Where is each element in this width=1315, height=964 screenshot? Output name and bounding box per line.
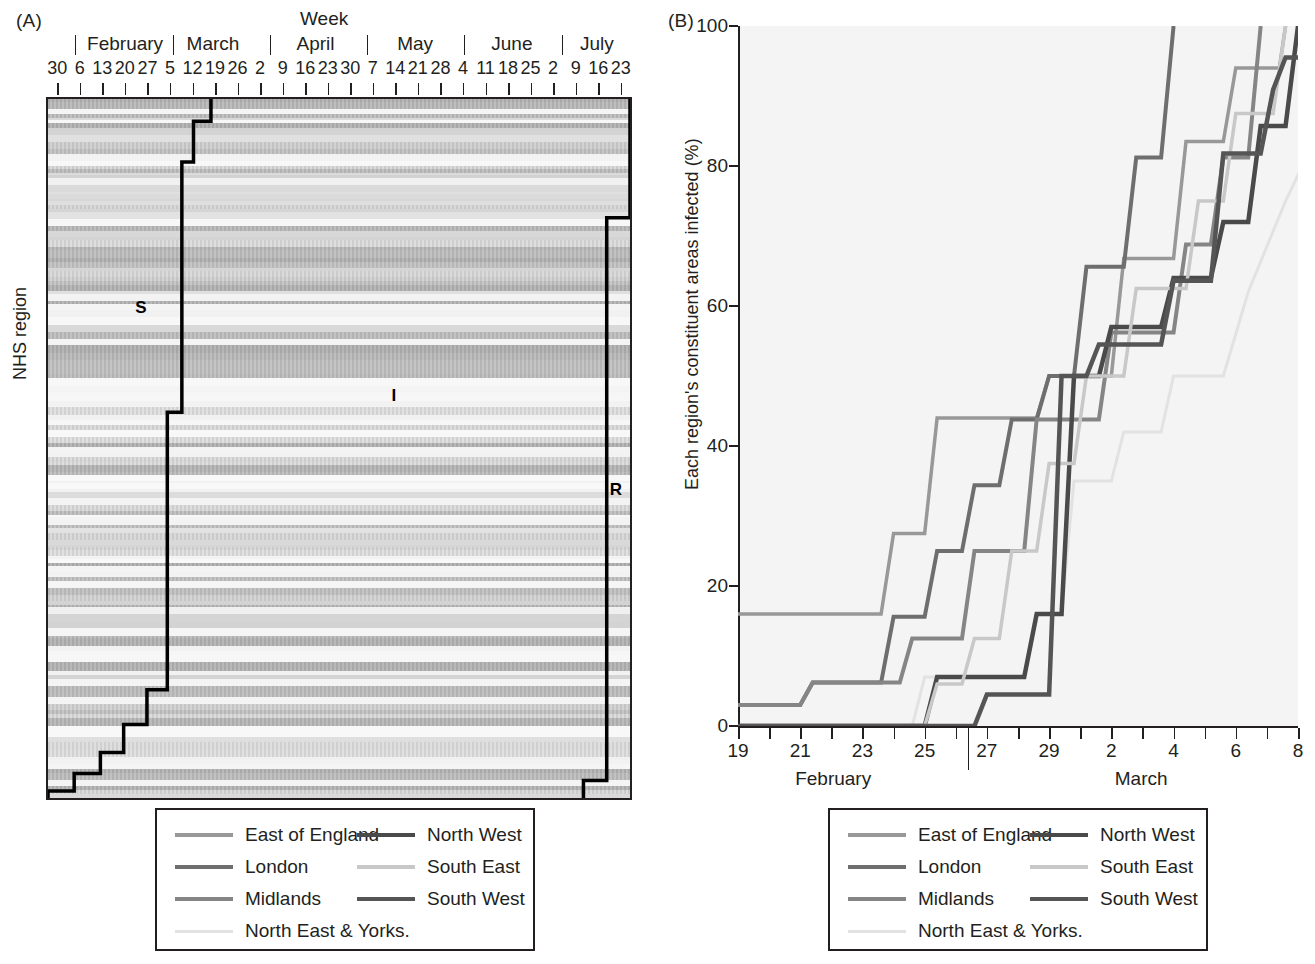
panel-a-tag: (A) [16, 10, 42, 32]
legend-b-grid: East of EnglandLondonMidlandsNorth East … [830, 810, 1206, 949]
legend-entry[interactable]: Midlands [848, 888, 994, 910]
y-tick-mark [729, 445, 738, 447]
panel-a-day-label: 25 [521, 58, 541, 79]
panel-a-day-label: 27 [137, 58, 157, 79]
legend-label: North West [1100, 824, 1195, 846]
y-tick-label: 0 [717, 715, 728, 737]
axis-tick [553, 83, 555, 95]
panel-b-line-chart [738, 26, 1298, 726]
month-separator [75, 35, 76, 55]
panel-a-month-label: July [580, 33, 614, 55]
legend-label: North East & Yorks. [245, 920, 410, 942]
legend-entry[interactable]: South West [1030, 888, 1198, 910]
x-tick [987, 728, 989, 739]
axis-tick [305, 83, 307, 95]
legend-label: South East [427, 856, 520, 878]
legend-a-grid: East of EnglandLondonMidlandsNorth East … [157, 810, 533, 949]
axis-tick [193, 83, 195, 95]
heatmap-row [48, 799, 630, 800]
axis-tick [395, 83, 397, 95]
legend-line-swatch [357, 897, 415, 902]
panel-a-month-label: May [397, 33, 433, 55]
axis-tick [463, 83, 465, 95]
y-tick-label: 60 [707, 295, 728, 317]
legend-entry[interactable]: North West [357, 824, 522, 846]
x-tick [769, 728, 771, 739]
axis-tick [102, 83, 104, 95]
panel-a-heatmap: SIR [46, 97, 632, 800]
month-separator [464, 35, 465, 55]
sir-step-boundary [48, 99, 630, 798]
panel-a-day-label: 2 [548, 58, 558, 79]
axis-tick [170, 83, 172, 95]
legend-panel-b: East of EnglandLondonMidlandsNorth East … [828, 808, 1208, 951]
axis-tick [508, 83, 510, 95]
panel-a-day-label: 19 [205, 58, 225, 79]
axis-tick [283, 83, 285, 95]
axis-tick [373, 83, 375, 95]
x-tick-label: 2 [1106, 740, 1117, 762]
panel-a-day-label: 11 [476, 58, 495, 79]
x-tick-label: 21 [790, 740, 811, 762]
legend-entry[interactable]: East of England [848, 824, 1052, 846]
panel-a-day-label: 16 [588, 58, 608, 79]
x-tick [1111, 728, 1113, 739]
legend-label: London [245, 856, 308, 878]
legend-entry[interactable]: South East [357, 856, 520, 878]
panel-a-day-label: 7 [368, 58, 378, 79]
axis-tick [576, 83, 578, 95]
x-tick-label: 8 [1293, 740, 1304, 762]
x-tick [738, 728, 740, 739]
axis-tick [486, 83, 488, 95]
axis-tick [125, 83, 127, 95]
axis-tick [328, 83, 330, 95]
legend-label: South West [1100, 888, 1198, 910]
panel-a-month-labels: FebruaryMarchAprilMayJuneJuly [46, 33, 632, 57]
legend-entry[interactable]: North East & Yorks. [175, 920, 410, 942]
month-separator [270, 35, 271, 55]
legend-line-swatch [848, 930, 906, 933]
x-tick [1236, 728, 1238, 739]
panel-a-day-label: 9 [278, 58, 288, 79]
axis-tick [80, 83, 82, 95]
legend-panel-a: East of EnglandLondonMidlandsNorth East … [155, 808, 535, 951]
x-tick-label: 29 [1039, 740, 1060, 762]
panel-a-day-label: 26 [228, 58, 248, 79]
x-tick [894, 728, 896, 739]
legend-line-swatch [848, 897, 906, 901]
legend-entry[interactable]: East of England [175, 824, 379, 846]
y-tick-mark [729, 305, 738, 307]
x-tick-label: 19 [727, 740, 748, 762]
legend-line-swatch [175, 833, 233, 837]
legend-entry[interactable]: London [848, 856, 981, 878]
sir-annotation-s: S [135, 298, 146, 318]
axis-tick [440, 83, 442, 95]
panel-a-day-label: 16 [295, 58, 315, 79]
legend-entry[interactable]: Midlands [175, 888, 321, 910]
legend-line-swatch [357, 833, 415, 838]
x-tick [1267, 728, 1269, 739]
panel-b-month-label: February [795, 768, 871, 790]
axis-tick [531, 83, 533, 95]
legend-entry[interactable]: North East & Yorks. [848, 920, 1083, 942]
x-tick-label: 23 [852, 740, 873, 762]
panel-a-month-label: April [297, 33, 335, 55]
legend-line-swatch [175, 930, 233, 933]
month-separator [562, 35, 563, 55]
y-tick-label: 80 [707, 155, 728, 177]
panel-a-day-label: 30 [340, 58, 360, 79]
y-tick-label: 20 [707, 575, 728, 597]
legend-entry[interactable]: South West [357, 888, 525, 910]
panel-a-day-label: 23 [611, 58, 631, 79]
panel-b-x-axis [738, 726, 1298, 738]
panel-a-day-label: 6 [75, 58, 85, 79]
panel-a-title: Week [300, 8, 348, 30]
legend-entry[interactable]: South East [1030, 856, 1193, 878]
panel-a-day-label: 23 [318, 58, 338, 79]
panel-a-day-labels: 3061320275121926291623307142128411182529… [46, 58, 632, 80]
panel-a-day-label: 2 [255, 58, 265, 79]
series-line [738, 26, 1261, 705]
legend-entry[interactable]: London [175, 856, 308, 878]
legend-entry[interactable]: North West [1030, 824, 1195, 846]
axis-tick [418, 83, 420, 95]
